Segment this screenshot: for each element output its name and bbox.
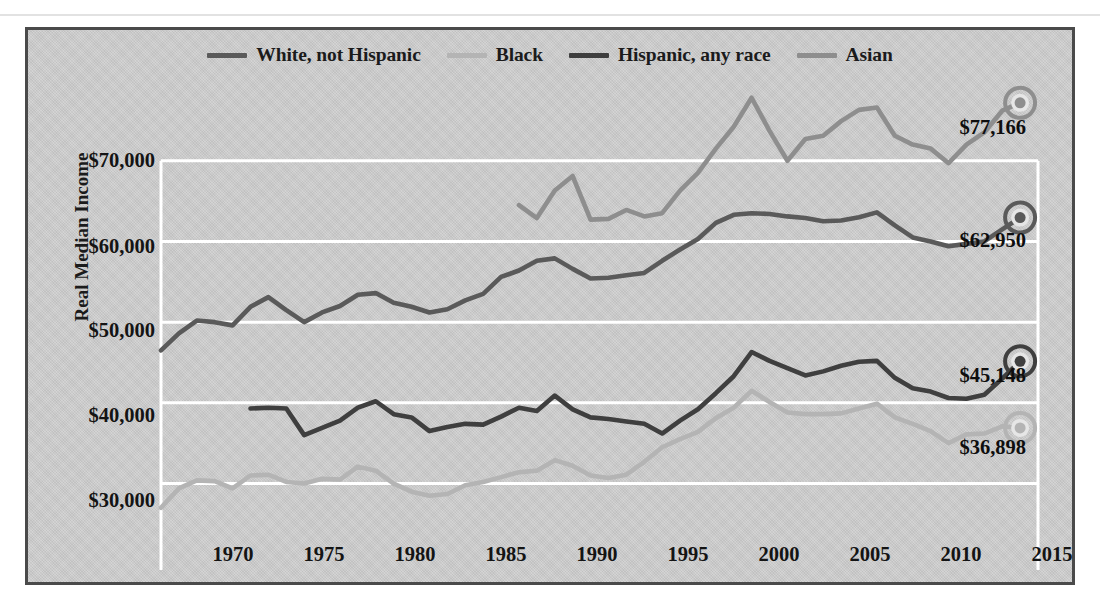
legend-item-white-not-hispanic[interactable]: White, not Hispanic [207,44,420,66]
y-tick-30000: $30,000 [35,489,155,512]
top-divider [0,14,1100,16]
plot-area [28,30,1072,582]
x-tick-1995: 1995 [643,543,733,566]
legend-swatch-white-not-hispanic [207,53,247,58]
y-axis-tick-labels: $70,000 $60,000 $50,000 $40,000 $30,000 [28,30,155,588]
x-tick-1980: 1980 [370,543,460,566]
chart-page: White, not Hispanic Black Hispanic, any … [0,0,1100,608]
x-tick-2010: 2010 [916,543,1006,566]
legend-item-hispanic[interactable]: Hispanic, any race [569,44,771,66]
endpoint-dot-black [1015,422,1026,433]
legend-label-white-not-hispanic: White, not Hispanic [256,44,420,66]
legend-item-asian[interactable]: Asian [797,44,893,66]
y-tick-70000: $70,000 [35,149,155,172]
legend-item-black[interactable]: Black [447,44,543,66]
x-tick-1970: 1970 [188,543,278,566]
y-tick-40000: $40,000 [35,404,155,427]
legend-label-black: Black [496,44,543,66]
end-label-white-not-hispanic: $62,950 [866,229,1026,252]
x-tick-2005: 2005 [825,543,915,566]
legend-swatch-hispanic [569,53,609,58]
endpoint-markers [1005,88,1035,443]
endpoint-dot-white-not-hispanic [1015,212,1026,223]
legend-label-hispanic: Hispanic, any race [618,44,771,66]
chart-legend: White, not Hispanic Black Hispanic, any … [28,44,1072,66]
y-tick-60000: $60,000 [35,235,155,258]
end-label-black: $36,898 [866,436,1026,459]
x-tick-1975: 1975 [279,543,369,566]
endpoint-dot-asian [1015,97,1026,108]
x-tick-1990: 1990 [552,543,642,566]
legend-label-asian: Asian [846,44,893,66]
end-label-asian: $77,166 [866,116,1026,139]
x-tick-2000: 2000 [734,543,824,566]
chart-frame: White, not Hispanic Black Hispanic, any … [25,27,1075,585]
x-tick-2015: 2015 [1007,543,1097,566]
legend-swatch-asian [797,53,837,58]
y-tick-50000: $50,000 [35,319,155,342]
end-label-hispanic: $45,148 [866,364,1026,387]
x-tick-1985: 1985 [461,543,551,566]
legend-swatch-black [447,53,487,58]
